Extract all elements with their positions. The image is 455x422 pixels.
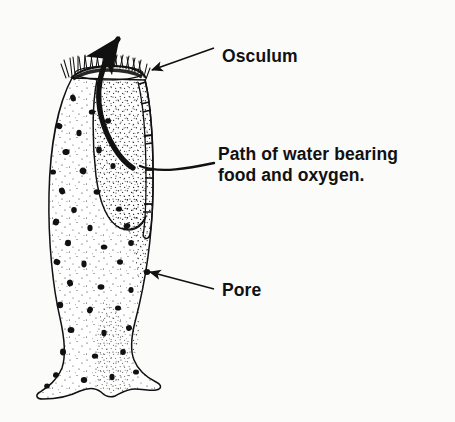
sponge-body-group: [37, 39, 161, 399]
path-of-water-label-line2: food and oxygen.: [218, 165, 364, 185]
pore-leader-arrow: [150, 272, 214, 289]
sponge-diagram-canvas: Osculum Path of water bearing food and o…: [0, 0, 455, 422]
sponge-diagram-figure: Osculum Path of water bearing food and o…: [0, 0, 455, 422]
callout-path-of-water: Path of water bearing food and oxygen.: [140, 144, 398, 185]
wall-cut-rung-4: [144, 135, 152, 136]
callout-osculum: Osculum: [152, 46, 298, 70]
path-of-water-label-line1: Path of water bearing: [218, 144, 398, 164]
pore-label: Pore: [222, 280, 261, 300]
osculum-label: Osculum: [222, 46, 298, 66]
wall-cut-rung-5: [145, 143, 153, 144]
callout-pore: Pore: [150, 272, 261, 300]
osculum-leader-arrow: [152, 48, 214, 70]
pore-highlighted: [144, 269, 150, 275]
